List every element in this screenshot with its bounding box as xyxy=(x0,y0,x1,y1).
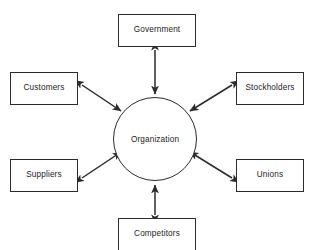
connector-unions xyxy=(190,152,232,178)
stakeholder-diagram: Organization Government Customers Stockh… xyxy=(0,0,310,250)
connector-customers xyxy=(82,85,121,111)
node-suppliers-label: Suppliers xyxy=(26,171,61,179)
scan-artifact xyxy=(111,0,201,7)
center-node-label: Organization xyxy=(131,135,179,144)
node-customers[interactable]: Customers xyxy=(10,72,78,105)
node-government[interactable]: Government xyxy=(118,14,196,47)
node-government-label: Government xyxy=(134,26,181,34)
node-stockholders-label: Stockholders xyxy=(245,84,294,92)
node-competitors-label: Competitors xyxy=(134,230,180,238)
center-node-organization[interactable]: Organization xyxy=(113,97,197,181)
node-unions[interactable]: Unions xyxy=(236,159,304,192)
node-suppliers[interactable]: Suppliers xyxy=(10,159,78,192)
node-customers-label: Customers xyxy=(24,84,65,92)
connector-stockholders xyxy=(190,85,232,111)
node-stockholders[interactable]: Stockholders xyxy=(236,72,304,105)
node-unions-label: Unions xyxy=(257,171,283,179)
connector-suppliers xyxy=(82,152,121,178)
node-competitors[interactable]: Competitors xyxy=(118,218,196,250)
